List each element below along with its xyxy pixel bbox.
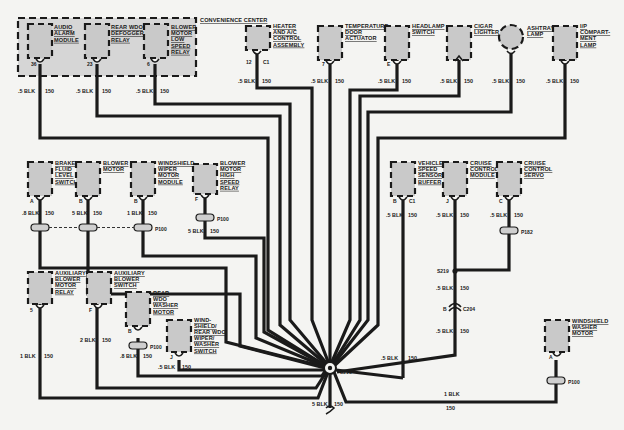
svg-text:.8 BLK: .8 BLK (120, 353, 137, 359)
svg-text:C1: C1 (263, 59, 270, 65)
svg-text:.5 BLK: .5 BLK (440, 78, 457, 84)
component-temperature-door-actuator: TEMPERATUREDOORACTUATOR 7 (318, 23, 388, 67)
svg-text:CRUISECONTROLSERVO: CRUISECONTROLSERVO (524, 160, 553, 178)
svg-text:B: B (128, 328, 132, 334)
svg-text:12: 12 (246, 59, 252, 65)
svg-text:.5 BLK: .5 BLK (386, 212, 403, 218)
svg-text:BLOWERMOTORHIGHSPEEDRELAY: BLOWERMOTORHIGHSPEEDRELAY (220, 160, 245, 191)
svg-text:.5 BLK: .5 BLK (76, 88, 93, 94)
component-ip-compartment-lamp: I/PCOMPART-MENTLAMP (553, 23, 610, 64)
svg-text:A: A (30, 198, 34, 204)
svg-text:F: F (195, 196, 198, 202)
component-blower-motor-high-speed-relay: BLOWERMOTORHIGHSPEEDRELAY F (193, 160, 245, 202)
svg-text:B: B (443, 306, 447, 312)
component-cruise-control-module: CRUISECONTROLMODULE J (443, 160, 499, 204)
svg-text:WINDSHIELDWASHERMOTOR: WINDSHIELDWASHERMOTOR (572, 318, 608, 336)
svg-text:1 BLK: 1 BLK (127, 210, 143, 216)
svg-text:5 BLK: 5 BLK (188, 228, 204, 234)
svg-text:B: B (79, 198, 83, 204)
svg-text:WINDSHIELDWIPERMOTORMODULE: WINDSHIELDWIPERMOTORMODULE (158, 160, 194, 185)
svg-text:150: 150 (335, 78, 344, 84)
component-brake-fluid-level-switch: BRAKEFLUIDLEVELSWITCH A (28, 160, 78, 204)
svg-text:150: 150 (460, 285, 469, 291)
svg-text:.5 BLK: .5 BLK (436, 285, 453, 291)
svg-text:I/PCOMPART-MENTLAMP: I/PCOMPART-MENTLAMP (580, 23, 610, 48)
component-headlamp-switch: HEADLAMPSWITCH E (385, 23, 445, 67)
svg-text:150: 150 (514, 212, 523, 218)
svg-text:C: C (499, 198, 503, 204)
svg-text:150: 150 (160, 88, 169, 94)
svg-text:23: 23 (87, 61, 93, 67)
svg-text:7: 7 (322, 61, 325, 67)
svg-text:150: 150 (44, 353, 53, 359)
svg-text:J: J (170, 354, 173, 360)
splice-s219: S219 (437, 268, 458, 274)
component-cigar-lighter: CIGARLIGHTER (447, 23, 499, 61)
svg-text:BLOWERMOTOR: BLOWERMOTOR (103, 160, 128, 172)
svg-text:6: 6 (147, 61, 150, 67)
svg-text:HEATERAND A/CCONTROLASSEMBLY: HEATERAND A/CCONTROLASSEMBLY (273, 23, 305, 48)
svg-text:AUXILIARYBLOWERMOTORRELAY: AUXILIARYBLOWERMOTORRELAY (55, 270, 86, 295)
svg-text:150: 150 (460, 328, 469, 334)
component-ashtray-lamp: ASHTRAYLAMP (499, 25, 554, 54)
svg-text:P100: P100 (150, 344, 162, 350)
svg-text:E: E (387, 61, 391, 67)
svg-text:.5 BLK: .5 BLK (136, 88, 153, 94)
component-windshield-washer-motor: WINDSHIELDWASHERMOTOR A (545, 318, 608, 360)
svg-text:5 BLK: 5 BLK (72, 210, 88, 216)
svg-text:B: B (134, 198, 138, 204)
svg-text:P182: P182 (521, 229, 533, 235)
svg-text:CIGARLIGHTER: CIGARLIGHTER (474, 23, 499, 35)
svg-text:AUXILIARYBLOWERSWITCH: AUXILIARYBLOWERSWITCH (114, 270, 145, 288)
component-vehicle-speed-sensor-buffer: VEHICLESPEEDSENSORBUFFER B C1 (391, 160, 443, 204)
svg-text:.5 BLK: .5 BLK (158, 364, 175, 370)
component-blower-motor: BLOWERMOTOR B (76, 160, 128, 204)
component-windshield-rear-wdo-wiper-washer-switch: WIND-SHIELD/REAR WDOWIPER/WASHERSWITCH J (167, 317, 226, 360)
svg-text:150: 150 (334, 401, 343, 407)
svg-text:5: 5 (30, 307, 33, 313)
svg-text:150: 150 (408, 355, 417, 361)
svg-text:.5 BLK: .5 BLK (381, 355, 398, 361)
svg-text:150: 150 (102, 337, 111, 343)
svg-text:S219: S219 (437, 268, 449, 274)
svg-text:150: 150 (516, 78, 525, 84)
svg-text:1 BLK: 1 BLK (20, 353, 36, 359)
svg-text:1 BLK: 1 BLK (444, 391, 460, 397)
svg-text:150: 150 (408, 212, 417, 218)
svg-text:VEHICLESPEEDSENSORBUFFER: VEHICLESPEEDSENSORBUFFER (418, 160, 443, 185)
svg-text:A: A (549, 354, 553, 360)
convenience-center-label: CONVENIENCE CENTER (200, 17, 267, 23)
svg-text:150: 150 (446, 405, 455, 411)
svg-text:.5 BLK: .5 BLK (490, 212, 507, 218)
svg-text:S218: S218 (340, 369, 352, 375)
svg-text:150: 150 (402, 78, 411, 84)
svg-text:150: 150 (460, 212, 469, 218)
svg-text:.8 BLK: .8 BLK (22, 210, 39, 216)
svg-text:5 BLK: 5 BLK (312, 401, 328, 407)
svg-text:150: 150 (210, 228, 219, 234)
svg-text:150: 150 (93, 210, 102, 216)
svg-text:C204: C204 (463, 306, 475, 312)
svg-text:150: 150 (182, 364, 191, 370)
svg-text:.5 BLK: .5 BLK (436, 212, 453, 218)
svg-text:TEMPERATUREDOORACTUATOR: TEMPERATUREDOORACTUATOR (345, 23, 388, 41)
svg-text:150: 150 (45, 88, 54, 94)
svg-text:.5 BLK: .5 BLK (492, 78, 509, 84)
svg-text:P100: P100 (217, 216, 229, 222)
svg-text:.5 BLK: .5 BLK (311, 78, 328, 84)
svg-text:P100: P100 (155, 226, 167, 232)
connector-c204: B C204 (443, 304, 475, 313)
svg-text:2 BLK: 2 BLK (80, 337, 96, 343)
svg-text:WIND-SHIELD/REAR WDOWIPER/WASH: WIND-SHIELD/REAR WDOWIPER/WASHERSWITCH (194, 317, 226, 354)
wires (40, 54, 565, 408)
svg-text:ASHTRAYLAMP: ASHTRAYLAMP (527, 25, 554, 37)
svg-text:150: 150 (148, 210, 157, 216)
svg-text:J: J (446, 198, 449, 204)
svg-text:.5 BLK: .5 BLK (238, 78, 255, 84)
svg-text:150: 150 (262, 78, 271, 84)
svg-text:CRUISECONTROLMODULE: CRUISECONTROLMODULE (470, 160, 499, 178)
svg-text:150: 150 (102, 88, 111, 94)
svg-text:.5 BLK: .5 BLK (546, 78, 563, 84)
svg-text:36: 36 (31, 61, 37, 67)
component-auxiliary-blower-motor-relay: AUXILIARYBLOWERMOTORRELAY 5 (28, 270, 86, 313)
